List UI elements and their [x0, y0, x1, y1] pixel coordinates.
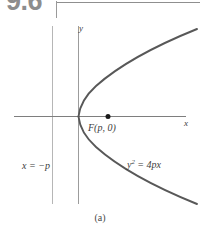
- parabola-upper-branch: [79, 29, 198, 117]
- header-horizontal-rule: [57, 2, 200, 3]
- parabola-plot-svg: [0, 18, 200, 208]
- focus-point-dot: [106, 114, 111, 119]
- directrix-label: x = −p: [22, 161, 50, 171]
- parabola-figure: 9.6 y x F(p, 0) x = −p y2 = 4px: [0, 0, 200, 229]
- focus-label: F(p, 0): [88, 123, 116, 133]
- header-vertical-rule: [56, 1, 57, 18]
- y-axis-label: y: [79, 24, 83, 33]
- plot-area: y x F(p, 0) x = −p y2 = 4px: [0, 18, 200, 208]
- x-axis-label: x: [184, 119, 188, 128]
- section-number: 9.6: [6, 0, 42, 15]
- equation-rest: = 4px: [135, 159, 161, 170]
- parabola-equation-label: y2 = 4px: [127, 159, 161, 170]
- figure-caption: (a): [0, 212, 200, 223]
